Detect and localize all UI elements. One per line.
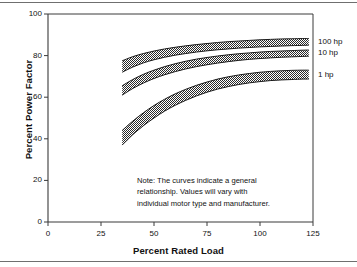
series-label-1-hp: 1 hp	[318, 70, 334, 79]
series-label-10-hp: 10 hp	[318, 48, 338, 57]
y-tick-label-100: 100	[16, 9, 42, 18]
y-tick-label-40: 40	[16, 134, 42, 143]
y-tick-label-20: 20	[16, 175, 42, 184]
chart-note-line-3: individual motor type and manufacturer.	[137, 198, 312, 209]
x-axis-title: Percent Rated Load	[0, 245, 357, 256]
figure-chart-power-factor-vs-load: Percent Power Factor Percent Rated Load …	[0, 0, 357, 267]
plot-canvas	[0, 0, 357, 267]
y-tick-label-80: 80	[16, 51, 42, 60]
x-tick-label-125: 125	[298, 229, 328, 238]
x-tick-label-25: 25	[86, 229, 116, 238]
x-tick-label-0: 0	[33, 229, 63, 238]
x-tick-label-75: 75	[192, 229, 222, 238]
chart-note-line-2: relationship. Values will vary with	[137, 186, 312, 197]
x-tick-label-50: 50	[139, 229, 169, 238]
x-tick-label-100: 100	[245, 229, 275, 238]
band-1-hp	[122, 70, 309, 145]
series-label-100-hp: 100 hp	[318, 37, 342, 46]
chart-note-line-1: Note: The curves indicate a general	[137, 175, 312, 186]
y-tick-label-60: 60	[16, 92, 42, 101]
y-tick-label-0: 0	[16, 217, 42, 226]
chart-note: Note: The curves indicate a general rela…	[137, 175, 312, 209]
data-bands	[122, 39, 309, 146]
